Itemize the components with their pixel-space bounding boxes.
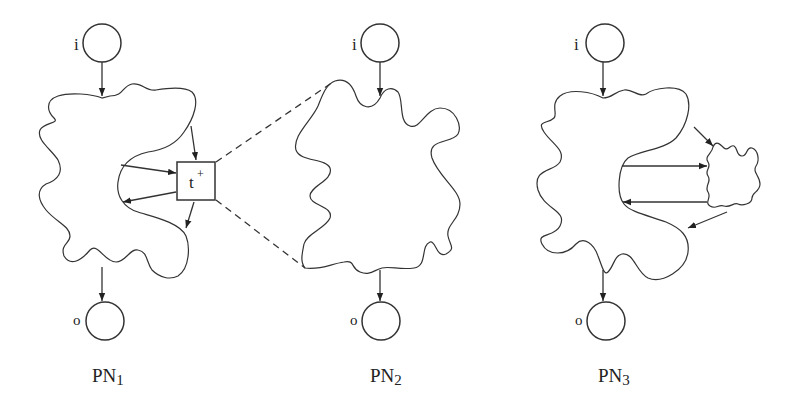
panel-label-pn3: PN3 — [598, 365, 630, 388]
arc-blob-to-subnet-top — [694, 127, 713, 146]
transition-superscript: + — [197, 167, 204, 181]
output-place-label-pn2: o — [350, 312, 358, 328]
panel-label-pn2: PN2 — [370, 365, 402, 388]
input-place-pn1 — [83, 24, 121, 62]
output-place-pn2 — [362, 302, 400, 340]
subnet-blob-pn3 — [537, 88, 689, 280]
petri-net-refinement-diagram: i t + o PN1 i o PN2 i — [0, 0, 797, 405]
panel-pn1: i t + o PN1 — [39, 24, 215, 388]
output-place-label-pn3: o — [575, 312, 583, 328]
output-place-pn1 — [86, 302, 124, 340]
arc-blob-to-transition-top — [191, 126, 196, 160]
input-place-label-pn3: i — [574, 35, 579, 54]
output-place-pn3 — [587, 302, 625, 340]
arc-blob-to-transition — [121, 165, 176, 173]
transition-t-plus — [177, 162, 215, 200]
panel-pn3: i o PN3 — [537, 24, 760, 388]
input-place-label-pn1: i — [74, 35, 79, 54]
panel-pn2: i o PN2 — [295, 24, 460, 388]
subnet-blob-pn2 — [295, 80, 460, 273]
arc-transition-to-blob — [123, 192, 176, 202]
refinement-dashed-line-bottom — [216, 200, 305, 268]
arc-transition-to-blob-bottom — [186, 202, 194, 228]
output-place-label-pn1: o — [73, 312, 81, 328]
input-place-label-pn2: i — [352, 35, 357, 54]
input-place-pn3 — [586, 24, 624, 62]
refinement-dashed-line-top — [216, 82, 333, 162]
refined-subnet-blob-pn3 — [707, 143, 760, 207]
subnet-blob-pn1 — [39, 84, 195, 278]
input-place-pn2 — [361, 24, 399, 62]
panel-label-pn1: PN1 — [92, 365, 124, 388]
arc-subnet-to-blob-bottom — [688, 212, 727, 228]
transition-label: t — [189, 173, 194, 192]
